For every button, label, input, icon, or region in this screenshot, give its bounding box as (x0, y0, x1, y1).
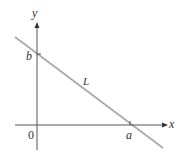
y-intercept-label: b (26, 50, 32, 62)
x-intercept-label: a (126, 129, 132, 141)
x-axis-label: x (169, 118, 174, 130)
y-axis-arrow-icon (35, 22, 40, 28)
origin-label: 0 (28, 129, 34, 141)
coordinate-diagram: y x 0 b a L (0, 0, 185, 160)
x-axis-arrow-icon (162, 123, 168, 128)
y-axis-label: y (32, 7, 37, 19)
line-label: L (83, 75, 89, 87)
